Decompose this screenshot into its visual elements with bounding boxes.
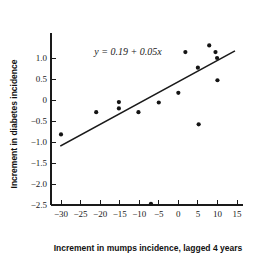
x-tick-label: 15 [233,209,243,219]
x-tick-label: −10 [132,209,147,219]
x-tick-label: −5 [154,209,164,219]
data-point [136,110,140,114]
data-point [207,43,211,47]
data-point [215,56,219,60]
data-point [117,106,121,110]
x-tick-label: −20 [93,209,108,219]
y-tick-label: −2.0 [31,179,48,189]
y-tick-label: 0 [43,95,48,105]
y-axis-ticks: 1.00.50−0.5−1.0−1.5−2.0−2.5 [31,53,56,210]
data-points [59,43,220,206]
x-tick-label: 10 [213,209,223,219]
data-point [213,50,217,54]
x-tick-label: −25 [74,209,89,219]
x-axis-title: Increment in mumps incidence, lagged 4 y… [54,243,243,253]
chart-canvas: 1.00.50−0.5−1.0−1.5−2.0−2.5 −30−25−20−15… [0,0,263,270]
data-point [197,122,201,126]
x-tick-label: −15 [113,209,128,219]
regression-equation-label: y = 0.19 + 0.05x [93,46,162,57]
x-tick-label: 0 [176,209,181,219]
axes [51,33,243,205]
x-tick-label: 5 [196,209,201,219]
x-axis-ticks: −30−25−20−15−10−5051015 [54,200,242,219]
data-point [196,66,200,70]
fitted-line-segment [61,51,234,146]
data-point [176,91,180,95]
y-tick-label: 0.5 [36,74,48,84]
x-tick-label: −30 [54,209,69,219]
data-point [149,202,153,206]
data-point [157,100,161,104]
y-tick-label: −2.5 [31,200,48,210]
y-tick-label: −1.0 [31,137,48,147]
scatter-plot-figure: 1.00.50−0.5−1.0−1.5−2.0−2.5 −30−25−20−15… [0,0,263,270]
data-point [59,132,63,136]
data-point [215,78,219,82]
regression-line [61,51,234,146]
y-axis-title: Increment in diabetes incidence [9,59,19,188]
data-point [117,100,121,104]
y-tick-label: −1.5 [31,158,48,168]
data-point [94,110,98,114]
y-tick-label: 1.0 [36,53,48,63]
y-tick-label: −0.5 [31,116,48,126]
data-point [183,50,187,54]
